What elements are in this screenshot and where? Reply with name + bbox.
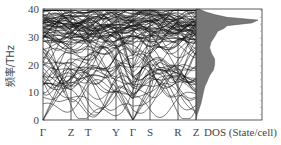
y-tick-label: 0: [34, 114, 40, 126]
y-tick-label: 20: [28, 59, 40, 71]
k-point-label: Z: [193, 126, 200, 138]
dos-area: [196, 9, 258, 120]
k-point-labels: ΓZTYΓSRZ: [40, 126, 200, 138]
y-axis-label: 频率/THz: [4, 45, 16, 87]
phonon-branch: [43, 32, 196, 88]
k-point-label: Γ: [40, 126, 46, 138]
y-tick-label: 10: [28, 86, 40, 98]
k-point-label: Y: [112, 126, 120, 138]
k-point-label: T: [85, 126, 92, 138]
band-structure-panel: [43, 10, 196, 120]
dos-panel: [196, 9, 258, 120]
y-axis-ticks: 010203040: [28, 3, 45, 126]
y-tick-label: 40: [28, 3, 40, 15]
y-tick-label: 30: [28, 31, 40, 43]
dos-axis-label: DOS (State/cell): [204, 126, 277, 139]
k-point-label: Γ: [130, 126, 136, 138]
k-point-label: Z: [68, 126, 75, 138]
k-point-label: S: [147, 126, 153, 138]
phonon-chart: 010203040 ΓZTYΓSRZ 频率/THz DOS (State/cel…: [0, 0, 281, 145]
k-point-label: R: [174, 126, 182, 138]
